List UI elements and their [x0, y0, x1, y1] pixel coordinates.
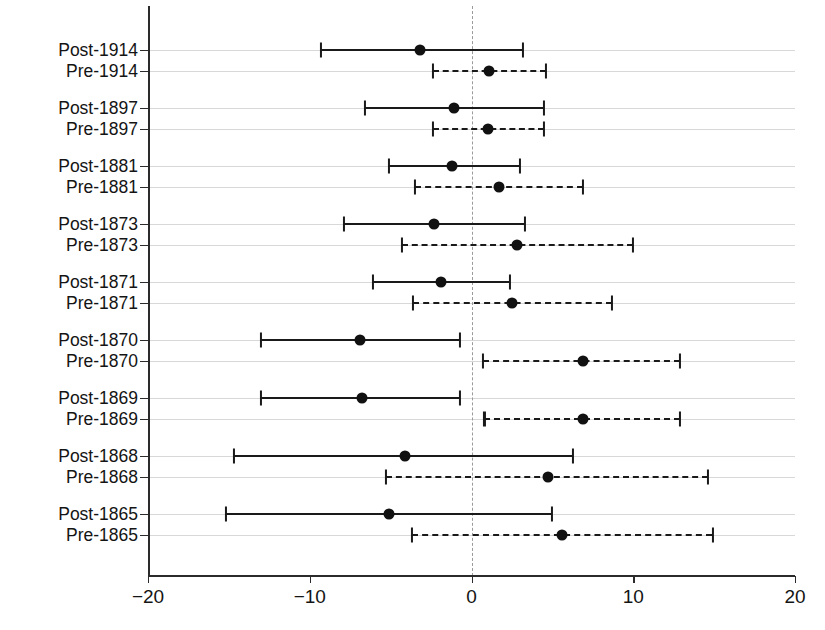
y-axis-label-post-1868: Post-1868 [58, 446, 138, 467]
y-axis-label-post-1873: Post-1873 [58, 214, 138, 235]
estimate-point [506, 298, 517, 309]
x-axis-label: 0 [466, 586, 477, 608]
x-axis-tick [472, 576, 473, 583]
interval-cap [414, 180, 416, 195]
interval-cap [522, 43, 524, 58]
y-axis-tick [140, 419, 148, 420]
estimate-point [511, 240, 522, 251]
x-axis-label: −20 [132, 586, 164, 608]
interval-cap [679, 354, 681, 369]
y-axis-tick [140, 50, 148, 51]
y-axis-label-post-1869: Post-1869 [58, 388, 138, 409]
x-axis-label: 10 [623, 586, 644, 608]
estimate-point [493, 182, 504, 193]
interval-cap [632, 238, 634, 253]
y-axis-tick [140, 340, 148, 341]
y-axis-tick [140, 224, 148, 225]
y-axis-tick [140, 535, 148, 536]
y-axis-tick [140, 282, 148, 283]
y-axis-tick [140, 187, 148, 188]
y-axis-tick [140, 398, 148, 399]
y-axis-tick [140, 245, 148, 246]
interval-cap [509, 275, 511, 290]
interval-cap [412, 296, 414, 311]
interval-cap [388, 159, 390, 174]
interval-cap [343, 217, 345, 232]
y-axis-label-pre-1869: Pre-1869 [66, 409, 138, 430]
estimate-point [484, 66, 495, 77]
y-axis-label-pre-1897: Pre-1897 [66, 119, 138, 140]
interval-cap [372, 275, 374, 290]
interval-cap [260, 333, 262, 348]
interval-cap [432, 122, 434, 137]
x-axis-label: 20 [784, 586, 805, 608]
y-axis-label-post-1871: Post-1871 [58, 272, 138, 293]
y-axis-tick [140, 477, 148, 478]
x-axis-tick [795, 576, 796, 583]
y-axis-label-pre-1881: Pre-1881 [66, 177, 138, 198]
y-axis-label-pre-1870: Pre-1870 [66, 351, 138, 372]
estimate-point [384, 509, 395, 520]
y-axis-tick [140, 71, 148, 72]
y-axis-label-post-1870: Post-1870 [58, 330, 138, 351]
y-axis-line [148, 6, 150, 576]
interval-cap [459, 333, 461, 348]
forest-plot: Post-1914Pre-1914Post-1897Pre-1897Post-1… [0, 0, 825, 630]
y-axis-label-pre-1871: Pre-1871 [66, 293, 138, 314]
y-axis-label-pre-1865: Pre-1865 [66, 525, 138, 546]
interval-cap [545, 64, 547, 79]
x-axis-label: −10 [294, 586, 326, 608]
interval-cap [679, 412, 681, 427]
interval-cap [711, 528, 713, 543]
estimate-point [578, 414, 589, 425]
interval-cap [572, 449, 574, 464]
interval-cap [233, 449, 235, 464]
estimate-point [400, 451, 411, 462]
interval-cap [401, 238, 403, 253]
interval-cap [551, 507, 553, 522]
interval-cap [707, 470, 709, 485]
interval-cap [611, 296, 613, 311]
x-axis-tick [633, 576, 634, 583]
y-axis-tick [140, 303, 148, 304]
interval-cap [364, 101, 366, 116]
y-axis-label-post-1881: Post-1881 [58, 156, 138, 177]
interval-cap [482, 354, 484, 369]
y-axis-tick [140, 361, 148, 362]
x-axis-tick [148, 576, 149, 583]
interval-cap [483, 412, 485, 427]
x-axis-tick [310, 576, 311, 583]
interval-cap [260, 391, 262, 406]
interval-cap [543, 122, 545, 137]
interval-cap [519, 159, 521, 174]
y-axis-tick [140, 456, 148, 457]
interval-cap [320, 43, 322, 58]
interval-cap [432, 64, 434, 79]
y-axis-label-pre-1868: Pre-1868 [66, 467, 138, 488]
estimate-point [542, 472, 553, 483]
estimate-point [435, 277, 446, 288]
interval-cap [543, 101, 545, 116]
estimate-point [447, 161, 458, 172]
y-axis-label-post-1897: Post-1897 [58, 98, 138, 119]
y-axis-label-pre-1873: Pre-1873 [66, 235, 138, 256]
zero-line [472, 6, 473, 576]
interval-cap [225, 507, 227, 522]
estimate-point [482, 124, 493, 135]
y-axis-tick [140, 514, 148, 515]
interval-cap [524, 217, 526, 232]
interval-cap [385, 470, 387, 485]
estimate-point [414, 45, 425, 56]
y-axis-label-post-1914: Post-1914 [58, 40, 138, 61]
y-axis-tick [140, 166, 148, 167]
y-axis-label-pre-1914: Pre-1914 [66, 61, 138, 82]
y-axis-tick [140, 129, 148, 130]
estimate-point [429, 219, 440, 230]
estimate-point [578, 356, 589, 367]
estimate-point [448, 103, 459, 114]
estimate-point [356, 393, 367, 404]
y-axis-label-post-1865: Post-1865 [58, 504, 138, 525]
y-axis-tick [140, 108, 148, 109]
estimate-point [354, 335, 365, 346]
interval-cap [582, 180, 584, 195]
